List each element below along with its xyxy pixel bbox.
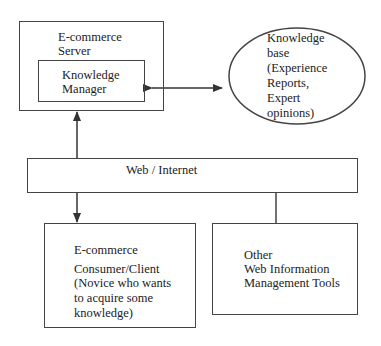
kb-line-2: base [267, 46, 289, 60]
client-line-1: E-commerce [74, 243, 138, 257]
server-title-line-2: Server [58, 44, 91, 58]
client-line-3: (Novice who wants [74, 276, 171, 290]
tools-line-1: Other [244, 248, 272, 262]
tools-line-2: Web Information [244, 262, 329, 276]
client-line-5: knowledge) [74, 306, 133, 320]
km-title-line-2: Manager [62, 82, 106, 96]
km-title-line-1: Knowledge [62, 68, 120, 82]
kb-line-5: Expert [267, 91, 300, 105]
tools-line-3: Management Tools [244, 276, 340, 290]
kb-line-6: opinions) [267, 106, 314, 120]
server-title-line-1: E-commerce [58, 30, 122, 44]
client-line-2: Consumer/Client [74, 262, 159, 276]
client-line-4: to acquire some [74, 291, 153, 305]
kb-line-1: Knowledge [267, 31, 325, 45]
kb-line-3: (Experience [267, 61, 327, 75]
web-internet-label: Web / Internet [126, 163, 197, 177]
kb-line-4: Reports, [267, 76, 309, 90]
